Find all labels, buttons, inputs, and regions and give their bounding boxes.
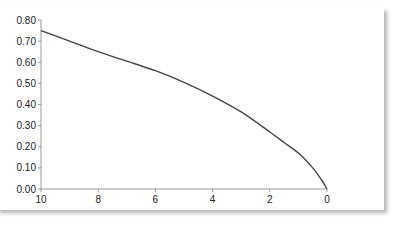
- x-tick-label: 8: [95, 194, 101, 205]
- y-tick-label: 0.40: [17, 99, 37, 110]
- y-tick-label: 0.50: [17, 78, 37, 89]
- y-axis-ticks: 0.000.100.200.300.400.500.600.700.80: [17, 15, 41, 195]
- x-tick-label: 4: [210, 194, 216, 205]
- y-tick-label: 0.10: [17, 162, 37, 173]
- y-tick-label: 0.60: [17, 57, 37, 68]
- x-tick-label: 6: [153, 194, 159, 205]
- y-tick-label: 0.70: [17, 36, 37, 47]
- y-tick-label: 0.00: [17, 184, 37, 195]
- axes: [41, 20, 327, 189]
- series-line-curve: [41, 31, 327, 189]
- y-tick-label: 0.20: [17, 141, 37, 152]
- x-tick-label: 2: [267, 194, 273, 205]
- y-tick-label: 0.80: [17, 15, 37, 26]
- x-axis-ticks: 1086420: [35, 189, 330, 205]
- series-group: [41, 31, 327, 189]
- x-tick-label: 0: [324, 194, 330, 205]
- y-tick-label: 0.30: [17, 120, 37, 131]
- x-tick-label: 10: [35, 194, 47, 205]
- line-chart: 0.000.100.200.300.400.500.600.700.80 108…: [0, 0, 398, 226]
